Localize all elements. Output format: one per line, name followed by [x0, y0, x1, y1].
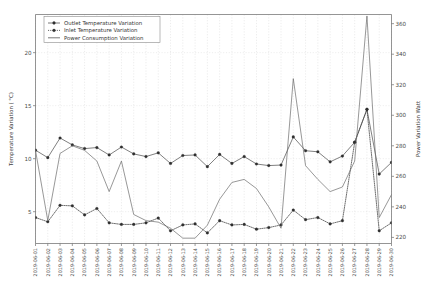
data-point-marker [120, 146, 123, 149]
data-point-marker [231, 224, 234, 227]
data-point-marker [83, 214, 86, 217]
legend-marker-1 [53, 29, 56, 32]
data-point-marker [59, 204, 62, 207]
series-path-1 [36, 109, 392, 233]
x-tick-label: 2019-06-16 [216, 248, 222, 276]
chart-legend: Outlet Temperature VariationInlet Temper… [44, 17, 160, 43]
x-tick-label: 2019-06-11 [155, 248, 161, 276]
chart-container: 5101520 220240260280300320340360 2019-06… [0, 0, 429, 296]
data-point-marker [243, 155, 246, 158]
data-point-marker [304, 149, 307, 152]
data-point-marker [132, 153, 135, 156]
data-point-marker [341, 219, 344, 222]
data-point-marker [71, 205, 74, 208]
series-path-2 [36, 16, 392, 238]
y-tick-label: 15 [24, 103, 32, 109]
x-tick-label: 2019-06-26 [339, 248, 345, 276]
x-tick-label: 2019-06-14 [192, 248, 198, 276]
data-point-marker [292, 209, 295, 212]
data-point-marker [157, 152, 160, 155]
y2-tick-label: 240 [396, 204, 407, 210]
data-point-marker [194, 223, 197, 226]
x-tick-label: 2019-06-09 [131, 248, 137, 276]
data-point-marker [218, 219, 221, 222]
data-point-marker [145, 221, 148, 224]
x-tick-label: 2019-06-12 [167, 248, 173, 276]
x-tick-label: 2019-06-06 [94, 248, 100, 276]
data-point-marker [157, 217, 160, 220]
series-path-0 [36, 109, 392, 174]
x-tick-label: 2019-06-29 [376, 248, 382, 276]
x-tick-label: 2019-06-05 [81, 248, 87, 276]
left-axis-ticks: 5101520 [24, 50, 35, 215]
data-point-marker [378, 173, 381, 176]
legend-label-2: Power Consumption Variation [64, 35, 143, 42]
data-point-marker [206, 232, 209, 235]
x-tick-label: 2019-06-20 [266, 248, 272, 276]
y2-axis-title: Power Variation Watt [415, 101, 421, 157]
y2-tick-label: 220 [396, 234, 407, 240]
data-point-marker [366, 108, 369, 111]
x-tick-label: 2019-06-01 [32, 248, 38, 276]
y-axis-title: Temperature Variation ( °C) [8, 92, 15, 167]
right-axis-ticks: 220240260280300320340360 [392, 21, 407, 241]
x-tick-label: 2019-06-17 [229, 248, 235, 276]
y-tick-label: 10 [24, 156, 32, 162]
x-tick-label: 2019-06-28 [364, 248, 370, 276]
y2-tick-label: 260 [396, 173, 407, 179]
data-point-marker [218, 153, 221, 156]
data-point-marker [34, 216, 37, 219]
grid-horizontal-lines [36, 53, 392, 212]
data-point-marker [108, 154, 111, 157]
data-point-marker [46, 156, 49, 159]
y2-tick-label: 300 [396, 112, 407, 118]
data-point-marker [96, 146, 99, 149]
data-point-marker [83, 147, 86, 150]
data-point-marker [390, 221, 393, 224]
legend-marker-0 [53, 22, 56, 25]
data-point-marker [267, 226, 270, 229]
data-point-marker [108, 221, 111, 224]
data-point-marker [243, 223, 246, 226]
grid-vertical-lines [36, 15, 392, 244]
legend-label-0: Outlet Temperature Variation [64, 20, 142, 27]
y2-tick-label: 340 [396, 51, 407, 57]
data-point-marker [316, 150, 319, 153]
data-point-marker [329, 161, 332, 164]
x-tick-label: 2019-06-25 [327, 248, 333, 276]
legend-label-1: Inlet Temperature Variation [64, 27, 137, 34]
data-point-marker [169, 162, 172, 165]
data-point-marker [378, 229, 381, 232]
y-tick-label: 20 [24, 50, 32, 56]
x-tick-label: 2019-06-10 [143, 248, 149, 276]
data-point-marker [132, 223, 135, 226]
data-point-marker [231, 162, 234, 165]
x-tick-label: 2019-06-23 [302, 248, 308, 276]
data-point-marker [59, 137, 62, 140]
y2-tick-label: 360 [396, 21, 407, 27]
x-tick-label: 2019-06-08 [118, 248, 124, 276]
line-chart-figure: 5101520 220240260280300320340360 2019-06… [0, 0, 429, 296]
data-point-marker [341, 155, 344, 158]
data-point-marker [169, 229, 172, 232]
data-point-marker [181, 154, 184, 157]
x-tick-label: 2019-06-19 [253, 248, 259, 276]
x-tick-label: 2019-06-13 [180, 248, 186, 276]
x-tick-label: 2019-06-15 [204, 248, 210, 276]
data-point-marker [181, 224, 184, 227]
data-point-marker [255, 163, 258, 166]
x-tick-label: 2019-06-07 [106, 248, 112, 276]
x-tick-label: 2019-06-03 [57, 248, 63, 276]
data-point-marker [96, 207, 99, 210]
data-point-marker [255, 228, 258, 231]
x-tick-label: 2019-06-30 [388, 248, 394, 276]
data-point-marker [145, 155, 148, 158]
data-point-marker [280, 164, 283, 167]
x-tick-label: 2019-06-21 [278, 248, 284, 276]
data-point-marker [304, 218, 307, 221]
data-point-marker [316, 216, 319, 219]
data-point-marker [120, 223, 123, 226]
data-point-marker [194, 154, 197, 157]
data-point-marker [329, 223, 332, 226]
x-tick-label: 2019-06-18 [241, 248, 247, 276]
